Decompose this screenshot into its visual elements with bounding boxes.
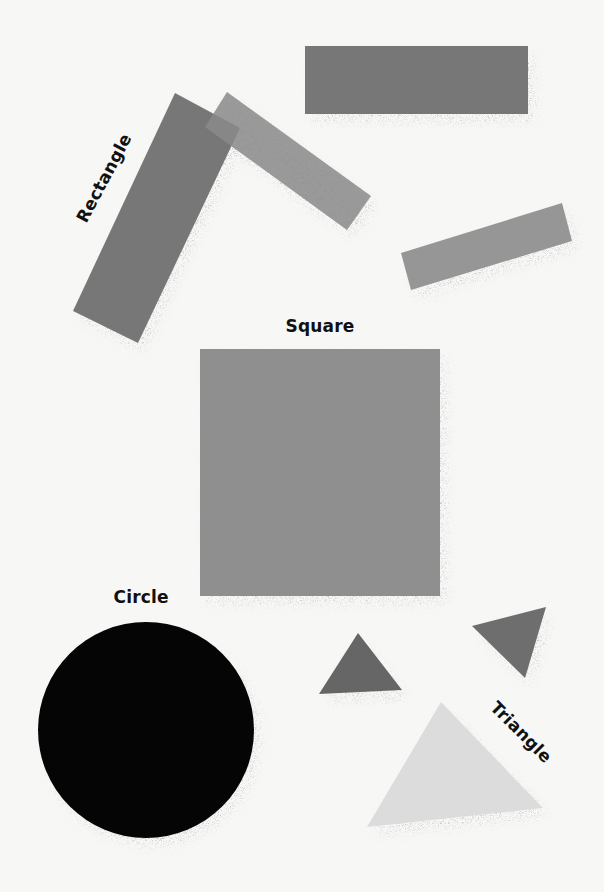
tilted-triangle: [472, 607, 546, 678]
top-rectangle: [305, 46, 528, 114]
square-label: Square: [286, 316, 355, 336]
small-triangle: [319, 633, 402, 694]
shapes-canvas: [0, 0, 604, 892]
right-tilted-rectangle: [401, 203, 572, 290]
circle: [38, 622, 254, 838]
circle-label: Circle: [114, 587, 169, 607]
square: [200, 349, 440, 596]
